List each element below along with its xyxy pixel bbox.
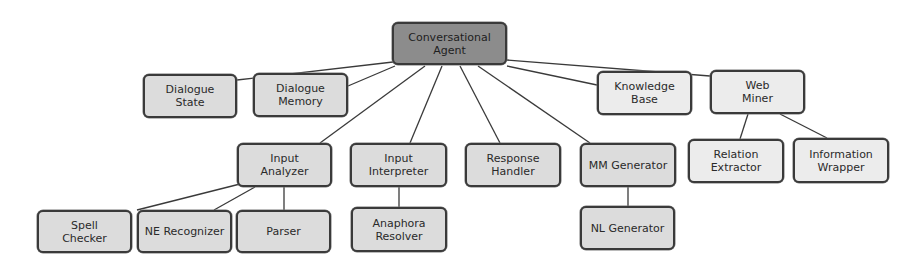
- edge-conversational-agent-to-input-interpreter: [410, 66, 442, 143]
- edge-conversational-agent-to-dialogue-memory: [348, 66, 395, 86]
- edge-input-analyzer-to-spell-checker: [137, 184, 240, 210]
- node-label: Input Interpreter: [366, 152, 431, 178]
- node-relation-extractor: Relation Extractor: [688, 139, 784, 183]
- node-label: Dialogue Memory: [273, 82, 328, 108]
- node-spell-checker: Spell Checker: [37, 210, 132, 253]
- node-label: Relation Extractor: [708, 148, 765, 174]
- architecture-diagram: Conversational AgentDialogue StateDialog…: [0, 0, 924, 275]
- node-label: NE Recognizer: [142, 225, 227, 238]
- node-label: Dialogue State: [163, 83, 218, 109]
- node-label: Information Wrapper: [806, 148, 876, 174]
- node-label: Knowledge Base: [611, 80, 677, 106]
- node-label: Spell Checker: [59, 219, 110, 245]
- node-nl-generator: NL Generator: [580, 206, 675, 250]
- node-label: Anaphora Resolver: [369, 217, 428, 243]
- node-label: Conversational Agent: [405, 31, 494, 57]
- node-information-wrapper: Information Wrapper: [793, 138, 889, 183]
- node-mm-generator: MM Generator: [580, 143, 676, 187]
- node-label: Parser: [263, 225, 303, 238]
- node-anaphora-resolver: Anaphora Resolver: [351, 207, 447, 252]
- edge-web-miner-to-relation-extractor: [740, 114, 748, 139]
- node-ne-recognizer: NE Recognizer: [137, 210, 232, 253]
- node-label: MM Generator: [586, 159, 670, 172]
- node-label: Response Handler: [484, 152, 543, 178]
- node-dialogue-state: Dialogue State: [143, 74, 237, 118]
- node-parser: Parser: [236, 210, 331, 253]
- node-label: NL Generator: [588, 222, 668, 235]
- node-label: Web Miner: [739, 79, 776, 105]
- node-label: Input Analyzer: [258, 152, 312, 178]
- node-knowledge-base: Knowledge Base: [597, 71, 692, 115]
- edge-conversational-agent-to-knowledge-base: [507, 66, 597, 85]
- node-conversational-agent: Conversational Agent: [392, 22, 507, 65]
- edge-web-miner-to-information-wrapper: [780, 114, 827, 138]
- edge-conversational-agent-to-mm-generator: [478, 66, 590, 143]
- edge-input-analyzer-to-ne-recognizer: [214, 187, 255, 210]
- node-input-interpreter: Input Interpreter: [350, 143, 447, 187]
- node-input-analyzer: Input Analyzer: [237, 143, 332, 187]
- node-dialogue-memory: Dialogue Memory: [253, 73, 348, 117]
- node-web-miner: Web Miner: [710, 70, 805, 114]
- node-response-handler: Response Handler: [465, 143, 561, 187]
